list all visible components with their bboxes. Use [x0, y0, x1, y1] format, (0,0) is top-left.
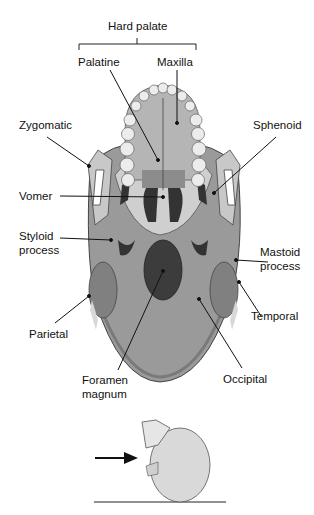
sphenoid-label: Sphenoid: [253, 118, 302, 132]
foramen-magnum-label: Foramen magnum: [82, 373, 128, 401]
temporal-label: Temporal: [251, 309, 298, 323]
hard-palate-label: Hard palate: [108, 19, 167, 33]
styloid-process-label: Styloid process: [19, 229, 59, 257]
maxilla-label: Maxilla: [157, 55, 193, 69]
orientation-inset: [94, 420, 226, 502]
mastoid-process-label: Mastoid process: [260, 245, 300, 273]
skull-base: [88, 83, 240, 382]
hard-palate-bracket: [79, 38, 196, 50]
occipital-label: Occipital: [223, 372, 267, 386]
zygomatic-label: Zygomatic: [19, 118, 72, 132]
palatine-label: Palatine: [78, 55, 120, 69]
parietal-label: Parietal: [29, 327, 68, 341]
vomer-label: Vomer: [19, 189, 52, 203]
